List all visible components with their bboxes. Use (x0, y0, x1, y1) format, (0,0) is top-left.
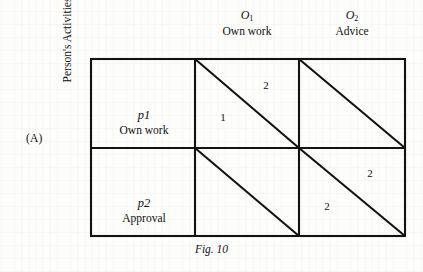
figure-caption: Fig. 10 (0, 243, 423, 255)
diagonal-r1c1 (195, 59, 299, 148)
cell-value-r1c1-lower: 1 (216, 111, 230, 123)
diagonal-r2c1 (195, 148, 299, 236)
row-label-p1-symbol: p1 (94, 108, 194, 123)
row-label-p2-name: Approval (94, 211, 194, 225)
figure-diagram: (A) Person's Activities O1 Own work O2 A… (0, 0, 423, 272)
cell-value-r2c2-upper: 2 (363, 167, 377, 179)
row-label-p1: p1 Own work (94, 108, 194, 137)
cell-value-r1c1-upper: 2 (259, 79, 273, 91)
cell-value-r2c2-lower: 2 (320, 200, 334, 212)
row-label-p1-name: Own work (94, 123, 194, 137)
diagonal-r2c2 (299, 148, 405, 236)
row-label-p2-symbol: p2 (94, 196, 194, 211)
diagonal-r1c2 (299, 59, 405, 148)
row-label-p2: p2 Approval (94, 196, 194, 225)
matrix-grid (0, 0, 423, 272)
